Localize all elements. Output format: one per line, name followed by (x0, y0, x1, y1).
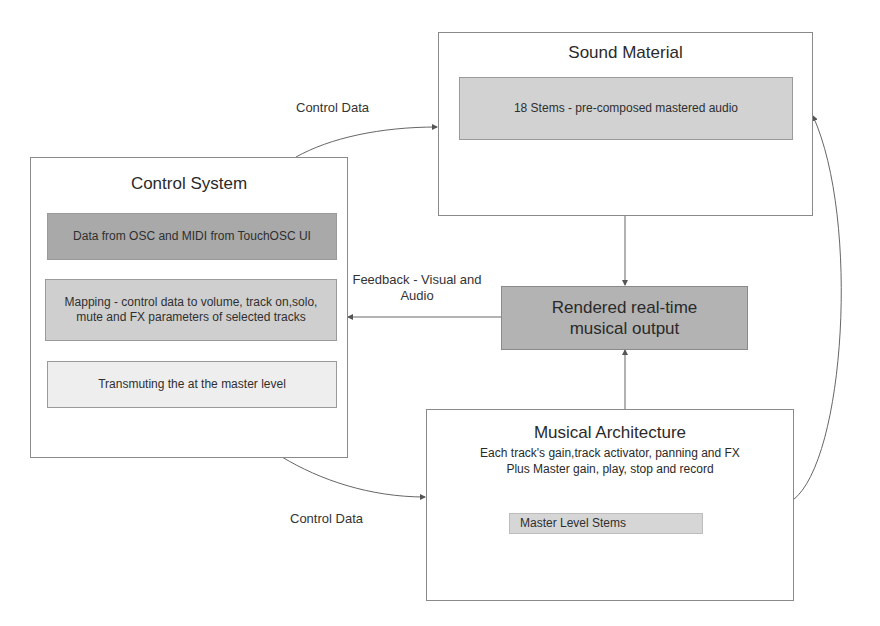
edge-control-to-arch (282, 457, 425, 497)
musical-architecture-node: Musical Architecture Each track's gain,t… (426, 409, 794, 601)
edge-label-control-data-bottom: Control Data (290, 511, 380, 527)
edge-control-to-sound (296, 127, 437, 157)
musical-architecture-desc-2: Plus Master gain, play, stop and record (427, 462, 793, 476)
control-system-node: Control System Data from OSC and MIDI fr… (30, 157, 348, 458)
osc-midi-box: Data from OSC and MIDI from TouchOSC UI (47, 213, 337, 260)
rendered-output-title: Rendered real-time musical output (532, 297, 717, 339)
edge-label-control-data-top: Control Data (296, 100, 386, 116)
sound-material-title: Sound Material (439, 43, 812, 63)
musical-architecture-title: Musical Architecture (427, 423, 793, 443)
stems-box: 18 Stems - pre-composed mastered audio (459, 77, 793, 140)
sound-material-node: Sound Material 18 Stems - pre-composed m… (438, 32, 813, 216)
transmuting-box: Transmuting the at the master level (47, 361, 337, 408)
mapping-box: Mapping - control data to volume, track … (45, 279, 337, 341)
musical-architecture-desc-1: Each track's gain,track activator, panni… (427, 446, 793, 460)
edge-label-feedback: Feedback - Visual and Audio (352, 272, 482, 304)
master-level-stems-box: Master Level Stems (509, 513, 703, 534)
rendered-output-node: Rendered real-time musical output (501, 286, 748, 350)
control-system-title: Control System (31, 174, 347, 194)
